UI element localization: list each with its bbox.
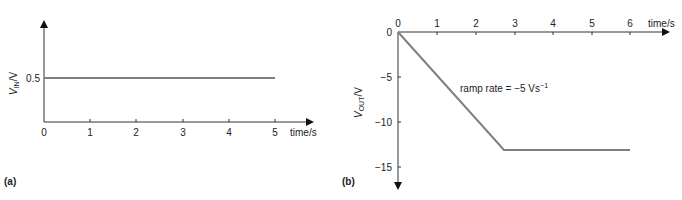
x-tick-label: 4: [550, 18, 556, 29]
x-tick-label: 1: [434, 18, 440, 29]
figure: 0 1 2 3 4 5 time/s 0.5 VIN/V (a) 0 1 2: [0, 0, 682, 200]
y-tick-label: 0.5: [26, 73, 40, 84]
x-tick-label: 3: [180, 127, 186, 138]
ramp-rate-annotation: ramp rate = −5 Vs−1: [460, 82, 548, 94]
chart-a: 0 1 2 3 4 5 time/s 0.5 VIN/V (a): [4, 22, 317, 187]
y-tick-label: −5: [381, 72, 393, 83]
x-tick-label: 4: [226, 127, 232, 138]
x-tick-label: 0: [41, 127, 47, 138]
x-tick-label: 2: [473, 18, 479, 29]
y-tick-label: −10: [375, 117, 392, 128]
y-tick-label: −15: [375, 162, 392, 173]
panel-label-a: (a): [4, 176, 16, 187]
x-tick-label: 5: [589, 18, 595, 29]
x-tick-label: 3: [512, 18, 518, 29]
x-axis-label: time/s: [648, 18, 675, 29]
y-axis-label: VOUT/V: [353, 87, 365, 118]
y-tick-label: 0: [386, 27, 392, 38]
panel-label-b: (b): [342, 176, 355, 187]
x-tick-label: 0: [395, 18, 401, 29]
x-tick-label: 1: [87, 127, 93, 138]
x-tick-label: 5: [272, 127, 278, 138]
x-tick-label: 6: [627, 18, 633, 29]
y-axis-label: VIN/V: [8, 72, 20, 95]
x-axis-label: time/s: [290, 127, 317, 138]
x-tick-label: 2: [133, 127, 139, 138]
chart-b: 0 1 2 3 4 5 6 time/s 0 −5 −10 −15 VOUT/V…: [342, 18, 675, 188]
